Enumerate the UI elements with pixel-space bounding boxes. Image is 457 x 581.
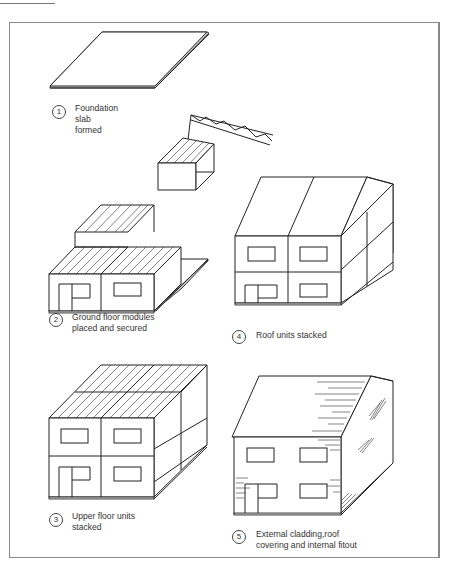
step1-foundation-slab	[50, 32, 209, 88]
step3-upper-floor	[49, 365, 207, 499]
crane-lifting-module	[158, 115, 273, 190]
step-label-1: Foundation slab formed	[75, 103, 118, 136]
step-label-2: Ground floor modules placed and secured	[72, 312, 155, 334]
step-number-1: 1	[52, 105, 66, 119]
step5-finished-house	[232, 376, 393, 515]
step-label-4: Roof units stacked	[256, 330, 327, 341]
step-number-2: 2	[49, 313, 63, 327]
step2-ground-floor	[49, 205, 208, 313]
step-number-4: 4	[232, 330, 246, 344]
step-label-5: External cladding,roof covering and inte…	[256, 529, 357, 551]
step-number-5: 5	[232, 530, 246, 544]
construction-diagram	[0, 0, 457, 581]
step-label-3: Upper floor units stacked	[72, 511, 135, 533]
step4-roof-units	[235, 177, 393, 305]
step-number-3: 3	[49, 513, 63, 527]
